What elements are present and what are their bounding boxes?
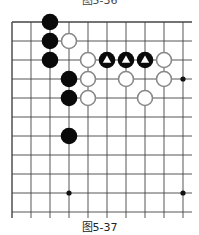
white-stone: [62, 34, 77, 49]
white-stone: [138, 91, 153, 106]
black-stone: [61, 71, 78, 88]
white-stone: [119, 72, 134, 87]
white-stone: [81, 91, 96, 106]
white-stone: [157, 72, 172, 87]
black-stone: [61, 90, 78, 107]
star-point: [180, 190, 185, 195]
white-stone: [81, 72, 96, 87]
star-point: [66, 190, 71, 195]
black-stone: [42, 52, 59, 69]
black-stone: [42, 33, 59, 50]
figure-caption: 图5-37: [0, 218, 199, 234]
white-stone: [157, 53, 172, 68]
star-point: [180, 76, 185, 81]
black-stone: [42, 14, 59, 31]
black-stone: [61, 128, 78, 145]
go-board-diagram: [0, 0, 199, 218]
white-stone: [81, 53, 96, 68]
